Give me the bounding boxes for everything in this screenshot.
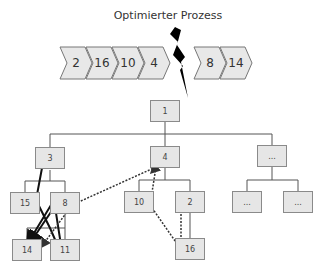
tree-node: 16 bbox=[175, 238, 205, 260]
tree-node: 10 bbox=[124, 191, 154, 213]
tree-node: 11 bbox=[50, 239, 80, 261]
process-step-label: 10 bbox=[116, 56, 140, 70]
tree-connectors bbox=[25, 122, 298, 239]
diagram-canvas bbox=[0, 0, 327, 275]
tree-node: 3 bbox=[35, 147, 65, 169]
tree-node: 2 bbox=[175, 191, 205, 213]
tree-node: ... bbox=[232, 191, 262, 213]
process-step-label: 2 bbox=[64, 56, 88, 70]
process-step-label: 8 bbox=[198, 56, 222, 70]
tree-node: 8 bbox=[50, 192, 80, 214]
tree-node: 4 bbox=[150, 146, 180, 168]
lightning-bolt-icon bbox=[170, 27, 188, 98]
process-step-label: 14 bbox=[224, 56, 248, 70]
process-step-label: 16 bbox=[90, 56, 114, 70]
tree-node: 15 bbox=[10, 192, 40, 214]
tree-node: ... bbox=[283, 191, 313, 213]
process-step-label: 4 bbox=[142, 56, 166, 70]
tree-node: ... bbox=[257, 145, 287, 167]
tree-node: 14 bbox=[12, 239, 42, 261]
tree-node-root: 1 bbox=[150, 100, 180, 122]
